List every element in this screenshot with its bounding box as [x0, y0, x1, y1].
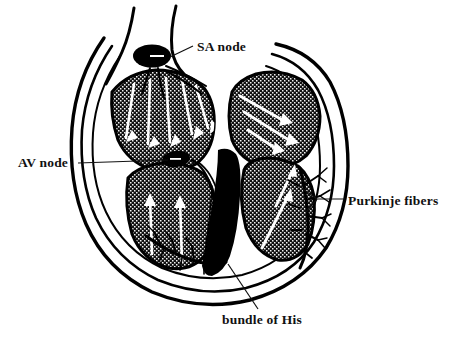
vessel-right: [172, 6, 185, 74]
heart-conduction-diagram: SA node AV node Purkinje fibers bundle o…: [0, 0, 460, 339]
label-av-node: AV node: [18, 156, 68, 170]
label-bundle-of-his: bundle of His: [222, 313, 302, 327]
label-purkinje-fibers: Purkinje fibers: [348, 194, 438, 208]
label-sa-node: SA node: [197, 40, 246, 54]
left-atrium: [112, 70, 215, 172]
right-ventricle: [241, 158, 314, 260]
sa-node: [133, 45, 171, 68]
